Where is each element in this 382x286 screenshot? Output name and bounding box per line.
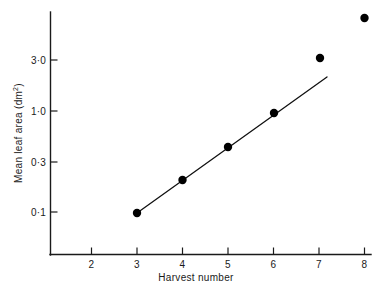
x-axis-title: Harvest number [158,272,234,283]
data-point [133,209,141,217]
figure-container: 0·1 0·3 1·0 3·0 2 3 4 5 6 7 8 [0,0,382,286]
x-tick-label-6: 8 [362,259,368,270]
data-point [270,109,278,117]
fitted-regression-line [137,77,327,213]
x-tick-label-3: 5 [225,259,231,270]
y-axis-title-group: Mean leaf area (dm2) [12,83,24,183]
y-tick-label-3: 3·0 [31,55,46,66]
data-point [316,54,324,62]
x-tick-marks [92,248,365,255]
data-point [224,143,232,151]
y-axis-title: Mean leaf area (dm2) [12,83,24,183]
data-point-series [133,14,369,217]
y-tick-marks [51,60,58,212]
chart-canvas: 0·1 0·3 1·0 3·0 2 3 4 5 6 7 8 [0,0,382,286]
data-point [360,14,368,22]
y-tick-label-0: 0·1 [31,207,46,218]
x-tick-label-0: 2 [89,259,95,270]
y-tick-label-1: 0·3 [31,157,46,168]
y-tick-label-2: 1·0 [31,106,46,117]
data-point [178,176,186,184]
x-tick-label-2: 4 [180,259,186,270]
x-tick-label-4: 6 [271,259,277,270]
x-tick-label-5: 7 [316,259,322,270]
y-axis-title-main: Mean leaf area (dm [13,91,24,183]
x-tick-label-1: 3 [134,259,140,270]
y-axis-title-close: ) [13,83,24,87]
